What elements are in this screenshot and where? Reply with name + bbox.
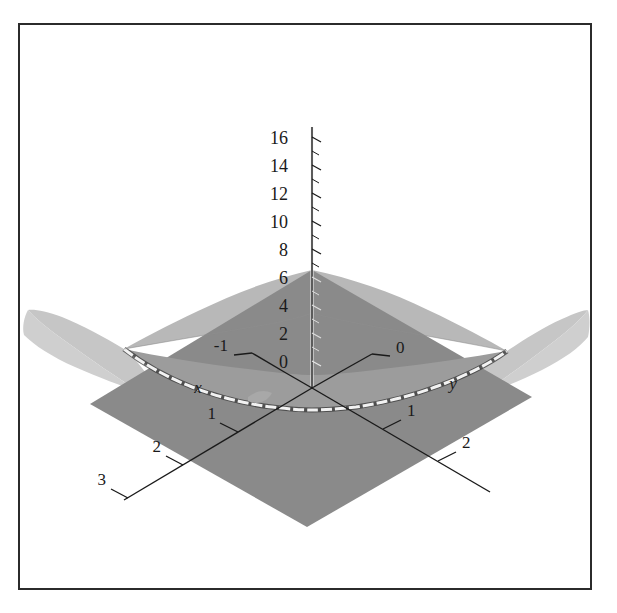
figure-container: 16 14 12 10 8 6 4 2 0 -1 1 2 3 0 1 2 xyxy=(0,0,617,613)
z-tick-4: 4 xyxy=(279,296,288,316)
three-d-plot-canvas: 16 14 12 10 8 6 4 2 0 -1 1 2 3 0 1 2 xyxy=(20,25,590,588)
y-tick-0: 0 xyxy=(396,338,405,357)
z-tick-2: 2 xyxy=(279,324,288,344)
x-tick-1: 1 xyxy=(208,404,217,423)
plot-frame: 16 14 12 10 8 6 4 2 0 -1 1 2 3 0 1 2 xyxy=(18,23,592,590)
z-tick-12: 12 xyxy=(270,184,288,204)
z-tick-10: 10 xyxy=(270,212,288,232)
y-tick-1: 1 xyxy=(407,401,416,420)
z-tick-6: 6 xyxy=(279,268,288,288)
z-tick-16: 16 xyxy=(270,128,288,148)
z-tick-0: 0 xyxy=(279,352,288,372)
x-tick-minus-1: -1 xyxy=(214,336,228,355)
x-tick-3: 3 xyxy=(98,470,107,489)
z-tick-14: 14 xyxy=(270,156,288,176)
x-tick-2: 2 xyxy=(153,437,162,456)
z-tick-8: 8 xyxy=(279,240,288,260)
y-tick-2: 2 xyxy=(462,433,471,452)
x-axis-label: x xyxy=(193,378,202,397)
y-axis-label: y xyxy=(447,374,457,393)
